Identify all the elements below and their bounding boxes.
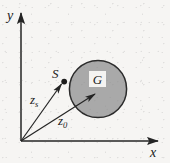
region-g-circle: [69, 60, 126, 117]
region-g-label: G: [89, 71, 106, 87]
y-axis-label: y: [7, 9, 13, 23]
x-axis-label: x: [150, 146, 156, 160]
vector-z0-subscript: 0: [63, 120, 67, 130]
point-s-marker: [61, 79, 67, 85]
vector-zs-label: zs: [30, 93, 38, 108]
coordinate-diagram: y x S zs z0 G: [0, 0, 170, 163]
vector-z0-label: z0: [58, 114, 67, 129]
vector-zs-subscript: s: [35, 99, 38, 109]
vector-zs-line: [21, 84, 62, 141]
point-s-label: S: [52, 67, 59, 80]
diagram-canvas: [0, 0, 170, 163]
